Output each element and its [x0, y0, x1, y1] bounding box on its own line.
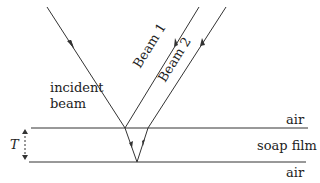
incident-label-line1: incident — [50, 80, 104, 95]
air-bottom-label: air — [286, 165, 305, 180]
thickness-indicator — [22, 129, 28, 160]
soap-film-diagram: incident beam Beam 1 Beam 2 air soap fil… — [0, 0, 320, 183]
incident-label-line2: beam — [50, 96, 86, 111]
film-path — [125, 128, 148, 162]
beam-2-label: Beam 2 — [155, 34, 194, 84]
soap-film-label: soap film — [257, 138, 317, 153]
air-top-label: air — [286, 112, 305, 127]
thickness-label: T — [10, 137, 20, 152]
